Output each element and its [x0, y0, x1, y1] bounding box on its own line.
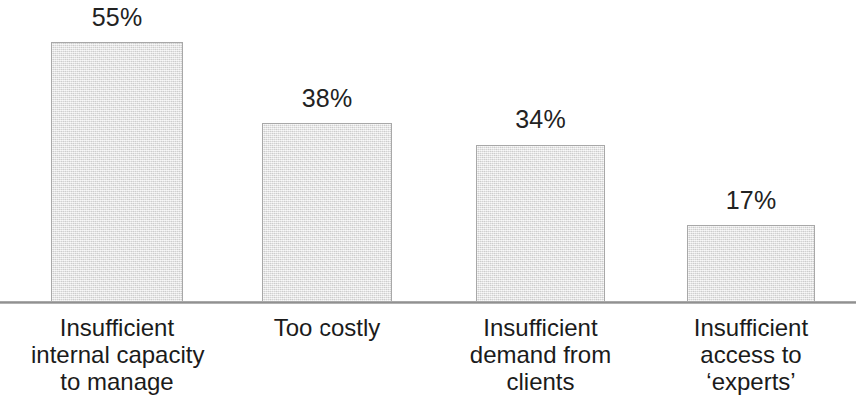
category-label-line: to manage [31, 368, 203, 395]
category-label-2: Insufficientdemand fromclients [455, 314, 626, 395]
bar-insufficient-access-to-experts [687, 225, 815, 302]
category-label-0: Insufficientinternal capacityto manage [31, 314, 203, 395]
category-label-line: Insufficient [31, 314, 203, 341]
category-label-line: ‘experts’ [667, 368, 835, 395]
category-label-line: access to [667, 341, 835, 368]
category-label-row: Insufficientinternal capacityto manage T… [0, 304, 856, 398]
category-label-line: demand from [455, 341, 626, 368]
bar-too-costly [262, 123, 392, 302]
category-label-line: internal capacity [31, 341, 203, 368]
category-label-1: Too costly [242, 314, 412, 341]
category-label-line: clients [455, 368, 626, 395]
bar-chart: 55% 38% 34% 17% Insufficientinternal cap… [0, 0, 856, 398]
category-label-line: Insufficient [455, 314, 626, 341]
category-label-line: Insufficient [667, 314, 835, 341]
bar-insufficient-demand-from-clients [476, 145, 605, 302]
bar-value-label-0: 55% [51, 4, 183, 30]
bar-value-label-1: 38% [262, 85, 392, 111]
bar-value-label-2: 34% [476, 106, 605, 132]
bar-insufficient-internal-capacity [51, 42, 183, 302]
plot-area: 55% 38% 34% 17% [0, 0, 856, 304]
bar-value-label-3: 17% [687, 187, 815, 213]
category-label-3: Insufficientaccess to‘experts’ [667, 314, 835, 395]
category-label-line: Too costly [242, 314, 412, 341]
